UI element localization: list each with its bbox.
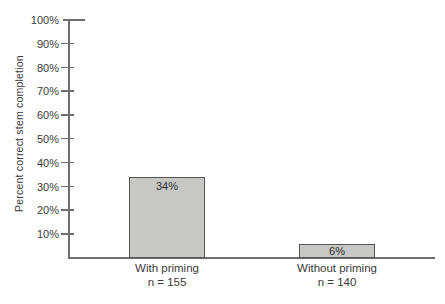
y-tick-mark <box>61 162 74 163</box>
y-tick-mark <box>61 67 74 68</box>
y-tick-mark <box>61 233 74 234</box>
y-tick-mark <box>61 138 74 139</box>
y-tick-label: 10% <box>12 227 59 241</box>
category-sample-size: n = 155 <box>97 276 237 290</box>
category-name: With priming <box>97 262 237 276</box>
bar-chart-figure: Percent correct stem completion 100%90%8… <box>0 0 445 304</box>
y-tick-label: 30% <box>12 180 59 194</box>
bar-without-priming: 6% <box>299 244 375 258</box>
y-tick-label: 80% <box>12 61 59 75</box>
x-axis-line <box>69 257 435 259</box>
y-tick-mark <box>61 43 74 44</box>
y-tick-label: 100% <box>12 13 59 27</box>
y-tick-mark <box>61 114 74 115</box>
y-axis-top-cap <box>63 19 85 21</box>
x-category-label: With primingn = 155 <box>97 262 237 289</box>
category-name: Without priming <box>267 262 407 276</box>
y-tick-label: 40% <box>12 156 59 170</box>
bar-value-label: 34% <box>156 180 178 192</box>
bar-value-label: 6% <box>329 245 345 257</box>
y-tick-label: 20% <box>12 203 59 217</box>
y-tick-label: 60% <box>12 108 59 122</box>
bar-with-priming: 34% <box>129 177 205 258</box>
y-tick-label: 70% <box>12 84 59 98</box>
y-tick-mark <box>61 209 74 210</box>
y-tick-label: 90% <box>12 37 59 51</box>
y-tick-label: 50% <box>12 132 59 146</box>
x-category-label: Without primingn = 140 <box>267 262 407 289</box>
y-tick-mark <box>61 90 74 91</box>
category-sample-size: n = 140 <box>267 276 407 290</box>
y-tick-mark <box>61 186 74 187</box>
